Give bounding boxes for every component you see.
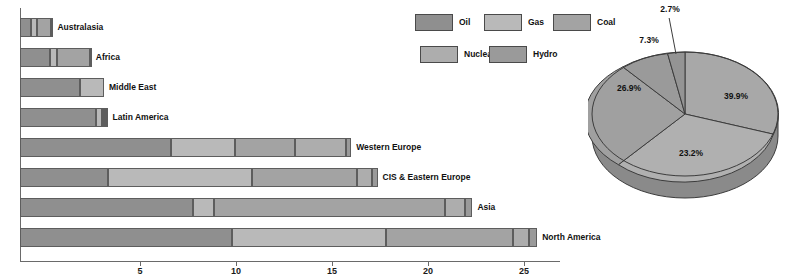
x-tick-label: 20 (423, 266, 433, 276)
x-tick-label: 15 (327, 266, 337, 276)
bar-segment-nuclear (357, 168, 371, 187)
bar-segment-oil (20, 48, 50, 67)
bar-label: CIS & Eastern Europe (383, 168, 471, 187)
pie-label-nuclear: 7.3% (639, 35, 658, 45)
bar-segment-oil (20, 228, 232, 247)
bar-segment-coal (386, 228, 513, 247)
bar-segment-hydro (90, 48, 92, 67)
bar-segment-oil (20, 78, 80, 97)
pie-chart: 2.7% 7.3% 26.9% 23.2% 39.9% (588, 18, 783, 203)
bar-segment-gas (171, 138, 235, 157)
pie-label-oil: 39.9% (724, 91, 748, 101)
bar-segment-hydro (372, 168, 378, 187)
pie-label-gas: 23.2% (679, 148, 703, 158)
chart-canvas: 5 10 15 20 25 AustralasiaAfricaMiddle Ea… (0, 0, 789, 279)
pie-leader-line-hydro (668, 18, 676, 54)
legend-swatch-nuclear (420, 46, 458, 63)
bar-segment-coal (252, 168, 358, 187)
pie-label-coal: 26.9% (617, 83, 641, 93)
legend-swatch-gas (484, 14, 522, 31)
x-axis-line (20, 261, 560, 262)
bar-segment-hydro (465, 198, 472, 217)
x-tick-label: 25 (519, 266, 529, 276)
bar-label: Middle East (109, 78, 156, 97)
legend-swatch-hydro (489, 46, 527, 63)
legend-swatch-oil (415, 14, 453, 31)
bar-segment-oil (20, 198, 193, 217)
x-tick-label: 5 (137, 266, 142, 276)
y-axis-line (20, 8, 21, 261)
bar-segment-coal (214, 198, 444, 217)
bar-segment-coal (37, 18, 51, 37)
bar-label: Latin America (113, 108, 169, 127)
bar-segment-nuclear (445, 198, 465, 217)
bar-segment-gas (232, 228, 386, 247)
bar-segment-hydro (106, 108, 108, 127)
chart-legend: Oil Gas Coal Nuclear Hydro (415, 14, 610, 69)
bar-label: North America (542, 228, 600, 247)
bar-segment-gas (80, 78, 104, 97)
bar-label: Australasia (57, 18, 103, 37)
bar-segment-gas (50, 48, 57, 67)
bar-segment-oil (20, 168, 108, 187)
bar-segment-hydro (529, 228, 537, 247)
bar-segment-coal (235, 138, 295, 157)
legend-swatch-coal (553, 14, 591, 31)
bar-segment-gas (193, 198, 215, 217)
bar-segment-oil (20, 108, 96, 127)
bar-segment-hydro (346, 138, 351, 157)
pie-label-hydro: 2.7% (660, 4, 679, 14)
legend-label-oil: Oil (459, 14, 470, 31)
bar-segment-oil (20, 138, 171, 157)
pie-svg (588, 18, 783, 203)
legend-label-gas: Gas (528, 14, 544, 31)
x-tick-label: 10 (231, 266, 241, 276)
bar-label: Asia (477, 198, 495, 217)
bar-segment-coal (57, 48, 89, 67)
bar-label: Western Europe (356, 138, 421, 157)
bar-segment-gas (108, 168, 252, 187)
bar-segment-hydro (51, 18, 53, 37)
bar-segment-nuclear (513, 228, 529, 247)
bar-segment-nuclear (295, 138, 347, 157)
legend-label-hydro: Hydro (533, 46, 558, 63)
bar-label: Africa (96, 48, 120, 67)
bar-segment-oil (20, 18, 31, 37)
